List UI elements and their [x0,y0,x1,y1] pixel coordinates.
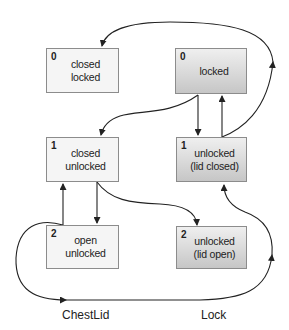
state-label-line2: (lid closed) [190,160,238,173]
chestlid-state-1: 1 closed unlocked [46,137,119,182]
state-label-line1: unlocked [194,147,234,160]
state-label-line1: locked [199,65,228,78]
state-label: unlocked (lid open) [183,227,246,268]
arc-lock0-to-chestlid1 [101,95,198,135]
chestlid-state-2: 2 open unlocked [46,225,119,269]
chestlid-machine-label: ChestLid [62,308,109,322]
state-label-line2: unlocked [65,247,105,260]
chestlid-state-0: 0 closed locked [46,48,119,93]
state-label-line2: (lid open) [194,248,236,261]
state-label: locked [182,49,246,93]
state-machine-diagram: 0 closed locked 1 closed unlocked 2 open… [0,0,289,330]
state-label-line2: locked [71,71,100,84]
state-label: closed locked [53,49,118,92]
arc-chestlid1-to-lock2 [97,182,197,225]
state-label: open unlocked [53,226,118,268]
state-label: unlocked (lid closed) [183,138,246,181]
state-label-line1: open [74,234,97,247]
state-label-line1: closed [71,58,100,71]
state-label-line1: closed [71,147,100,160]
lock-state-2: 2 unlocked (lid open) [176,226,247,269]
lock-machine-label: Lock [201,308,226,322]
state-label: closed unlocked [53,138,118,181]
lock-state-0: 0 locked [175,48,247,94]
state-label-line2: unlocked [65,160,105,173]
state-label-line1: unlocked [194,235,234,248]
lock-state-1: 1 unlocked (lid closed) [176,137,247,182]
